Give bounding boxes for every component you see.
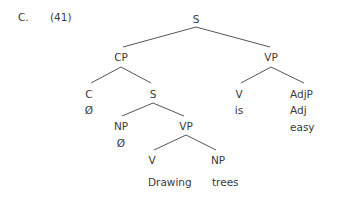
tree-branches bbox=[0, 0, 339, 197]
node-np-obj: NP bbox=[211, 154, 225, 166]
node-adj: Adj bbox=[290, 104, 307, 116]
branch-vp2-np bbox=[186, 135, 216, 150]
word-is: is bbox=[235, 104, 243, 116]
node-vp-embedded: VP bbox=[179, 120, 193, 132]
branch-s-cp bbox=[123, 27, 196, 47]
branch-cp-c bbox=[91, 67, 121, 83]
branch-cp-s bbox=[121, 67, 151, 83]
node-adjp: AdjP bbox=[290, 88, 313, 100]
word-drawing: Drawing bbox=[148, 176, 192, 188]
example-number: (41) bbox=[50, 11, 72, 23]
node-np-subj: NP bbox=[114, 120, 128, 132]
node-s-embedded: S bbox=[150, 88, 157, 100]
node-v-embedded: V bbox=[148, 154, 155, 166]
branch-vp2-v bbox=[154, 135, 186, 150]
node-c-null: Ø bbox=[85, 104, 93, 116]
branch-vp-v bbox=[241, 67, 271, 83]
node-cp: CP bbox=[114, 51, 128, 63]
node-c: C bbox=[85, 88, 92, 100]
branch-s-vp bbox=[196, 27, 270, 47]
node-vp-main: VP bbox=[264, 51, 278, 63]
node-np-subj-null: Ø bbox=[117, 137, 125, 149]
example-letter: C. bbox=[18, 11, 29, 23]
node-v-main: V bbox=[235, 88, 242, 100]
node-s-root: S bbox=[193, 13, 200, 25]
word-easy: easy bbox=[290, 121, 315, 133]
branch-s2-vp bbox=[153, 103, 184, 116]
branch-vp-adjp bbox=[271, 67, 304, 83]
branch-s2-np bbox=[122, 103, 153, 116]
word-trees: trees bbox=[212, 176, 239, 188]
syntax-tree-diagram: C. (41) S CP VP C Ø S V is AdjP Adj easy… bbox=[0, 0, 339, 197]
